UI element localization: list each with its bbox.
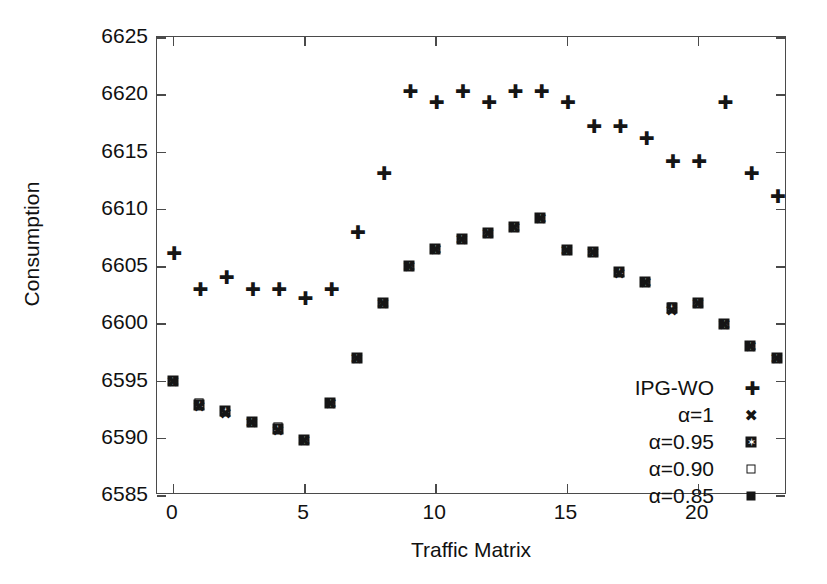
- cross-marker-icon: ✖: [166, 374, 179, 387]
- cross-marker-icon: ✖: [298, 434, 311, 447]
- open-square-marker-icon: [588, 248, 597, 257]
- legend-item-label: α=1: [556, 403, 740, 427]
- plus-marker-icon: ✚: [613, 120, 626, 133]
- cross-marker-icon: ✖: [508, 221, 521, 234]
- plus-marker-icon: ✚: [324, 282, 337, 295]
- filled-square-marker-icon: [720, 320, 729, 329]
- legend-item-symbol: [740, 485, 762, 507]
- open-square-marker-icon: [168, 376, 177, 385]
- legend-item-symbol: ✚: [740, 377, 762, 399]
- x-tick-label: 10: [404, 500, 464, 524]
- cross-marker-icon: ✖: [744, 340, 757, 353]
- star-square-marker-icon: ✶: [482, 227, 493, 238]
- filled-square-marker-icon: [405, 262, 414, 271]
- cross-marker-icon: ✖: [455, 232, 468, 245]
- open-square-marker-icon: [720, 320, 729, 329]
- scatter-chart-figure: Consumption 6585659065956600660566106615…: [0, 0, 827, 584]
- filled-square-marker-icon: [641, 278, 650, 287]
- filled-square-marker-icon: [378, 298, 387, 307]
- star-square-marker-icon: ✶: [194, 399, 205, 410]
- y-tick-mark: [157, 381, 166, 383]
- open-square-marker-icon: [510, 223, 519, 232]
- plus-marker-icon: ✚: [560, 96, 573, 109]
- filled-square-marker-icon: [746, 342, 755, 351]
- plus-marker-icon: ✚: [166, 247, 179, 260]
- cross-marker-icon: ✖: [271, 423, 284, 436]
- legend-item: α=1✖: [556, 401, 762, 428]
- x-tick-mark-top: [435, 37, 437, 46]
- x-tick-label: 20: [667, 500, 727, 524]
- y-tick-label: 6595: [56, 368, 148, 392]
- star-square-marker-icon: ✶: [745, 341, 756, 352]
- star-square-marker-icon: ✶: [272, 423, 283, 434]
- open-square-marker-icon: [221, 407, 230, 416]
- y-tick-mark: [157, 323, 166, 325]
- filled-square-marker-icon: [273, 423, 282, 432]
- y-tick-mark: [157, 209, 166, 211]
- filled-square-marker-icon: [300, 436, 309, 445]
- filled-square-marker-icon: [247, 417, 256, 426]
- plus-marker-icon: ✚: [298, 292, 311, 305]
- y-tick-mark-right: [776, 323, 785, 325]
- open-square-marker-icon: [378, 298, 387, 307]
- plus-marker-icon: ✚: [455, 84, 468, 97]
- y-tick-mark: [157, 152, 166, 154]
- star-square-marker-icon: ✶: [719, 319, 730, 330]
- filled-square-marker-icon: [562, 245, 571, 254]
- y-tick-mark-right: [776, 266, 785, 268]
- filled-square-marker-icon: [483, 228, 492, 237]
- legend-item: α=0.90: [556, 455, 762, 482]
- legend-item-symbol: ✖: [740, 404, 762, 426]
- plus-marker-icon: ✚: [665, 154, 678, 167]
- open-square-marker-icon: [457, 234, 466, 243]
- open-square-marker-icon: [273, 423, 282, 432]
- filled-square-marker-icon: [457, 234, 466, 243]
- star-square-marker-icon: ✶: [640, 277, 651, 288]
- filled-square-marker-icon: [221, 407, 230, 416]
- legend-item-label: IPG-WO: [556, 376, 740, 400]
- filled-square-marker-icon: [536, 213, 545, 222]
- filled-square-marker-icon: [352, 353, 361, 362]
- y-tick-label: 6625: [56, 24, 148, 48]
- cross-marker-icon: ✖: [639, 276, 652, 289]
- x-tick-label: 5: [273, 500, 333, 524]
- cross-marker-icon: ✖: [324, 397, 337, 410]
- star-square-marker-icon: ✶: [220, 406, 231, 417]
- open-square-marker-icon: [693, 298, 702, 307]
- open-square-marker-icon: [483, 228, 492, 237]
- filled-square-marker-icon: [693, 298, 702, 307]
- filled-square-marker-icon: [431, 244, 440, 253]
- y-tick-label: 6615: [56, 139, 148, 163]
- x-tick-mark-top: [698, 37, 700, 46]
- star-square-marker-icon: ✶: [377, 297, 388, 308]
- plus-marker-icon: ✚: [744, 167, 757, 180]
- y-tick-mark-right: [776, 94, 785, 96]
- y-tick-mark-right: [776, 152, 785, 154]
- x-tick-mark: [173, 484, 175, 493]
- filled-square-marker-icon: [747, 491, 756, 500]
- cross-marker-icon: ✖: [691, 296, 704, 309]
- cross-marker-icon: ✖: [745, 408, 758, 421]
- y-tick-mark-right: [776, 438, 785, 440]
- plus-marker-icon: ✚: [376, 167, 389, 180]
- open-square-marker-icon: [641, 278, 650, 287]
- y-tick-mark-right: [776, 209, 785, 211]
- star-square-marker-icon: ✶: [771, 352, 782, 363]
- legend-item-label: α=0.90: [556, 457, 740, 481]
- open-square-marker-icon: [405, 262, 414, 271]
- star-square-marker-icon: ✶: [509, 222, 520, 233]
- cross-marker-icon: ✖: [613, 266, 626, 279]
- x-tick-mark: [435, 484, 437, 493]
- y-tick-mark: [157, 495, 166, 497]
- cross-marker-icon: ✖: [219, 406, 232, 419]
- filled-square-marker-icon: [667, 303, 676, 312]
- legend-item: α=0.95✶: [556, 428, 762, 455]
- star-square-marker-icon: ✶: [614, 266, 625, 277]
- open-square-marker-icon: [536, 213, 545, 222]
- plus-marker-icon: ✚: [429, 96, 442, 109]
- filled-square-marker-icon: [510, 223, 519, 232]
- star-square-marker-icon: ✶: [692, 297, 703, 308]
- cross-marker-icon: ✖: [770, 351, 783, 364]
- x-tick-mark-top: [567, 37, 569, 46]
- chart-legend: IPG-WO✚α=1✖α=0.95✶α=0.90α=0.85: [556, 374, 762, 509]
